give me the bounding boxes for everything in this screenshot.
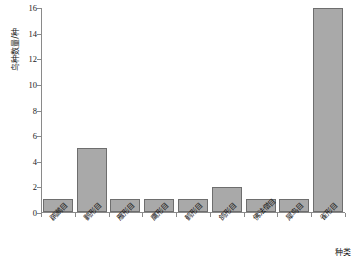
y-tick-label: 16 (29, 4, 38, 13)
y-tick-label: 14 (29, 29, 38, 38)
y-tick-label: 0 (33, 209, 37, 218)
bar-slot (75, 8, 109, 212)
y-tick-label: 8 (33, 106, 37, 115)
y-axis-title: 鸟种数量/种 (9, 10, 20, 90)
x-axis-title: 种类 (335, 246, 351, 257)
bar-slot (244, 8, 278, 212)
bar-series (41, 8, 345, 212)
y-tick-label: 12 (29, 55, 38, 64)
y-tick-label: 10 (29, 81, 38, 90)
bar-slot (109, 8, 143, 212)
bar-slot (176, 8, 210, 212)
bar-slot (311, 8, 345, 212)
plot-area: 0246810121416 (41, 8, 345, 213)
bar[interactable] (313, 8, 343, 212)
x-tick-mark (345, 213, 346, 217)
y-tick-label: 6 (33, 132, 37, 141)
bar-chart: 鸟种数量/种 0246810121416 䴙䴘目鹳形目雁形目鹰形目鹤形目鸽形目佛… (0, 0, 358, 266)
bar-slot (277, 8, 311, 212)
bar-slot (142, 8, 176, 212)
x-axis-tick-labels: 䴙䴘目鹳形目雁形目鹰形目鹤形目鸽形目佛法僧目犀鸟目雀形目 (41, 215, 345, 259)
bar-slot (210, 8, 244, 212)
y-tick-label: 2 (33, 183, 37, 192)
y-tick-label: 4 (33, 158, 37, 167)
bar-slot (41, 8, 75, 212)
